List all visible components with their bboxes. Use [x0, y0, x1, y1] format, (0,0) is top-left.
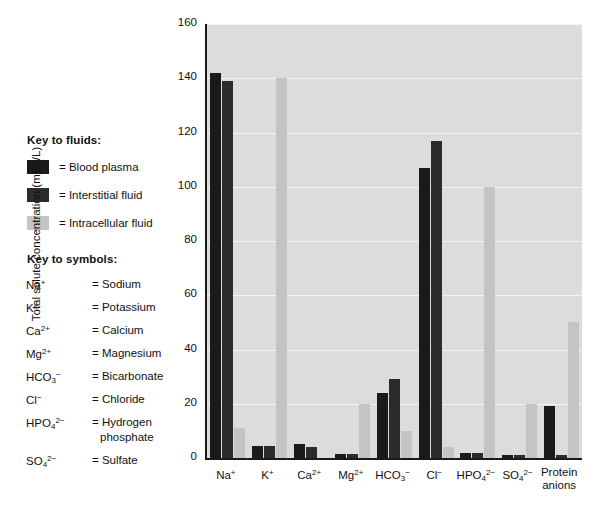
bar-1-0 [252, 446, 263, 458]
y-tick-label-80: 80 [163, 233, 197, 245]
bar-2-1 [306, 447, 317, 458]
bar-3-2 [359, 404, 370, 458]
bar-group-1 [252, 24, 287, 458]
y-tick-label-120: 120 [163, 125, 197, 137]
bar-6-2 [484, 187, 495, 458]
y-tick-label-0: 0 [163, 450, 197, 462]
bar-group-5 [419, 24, 454, 458]
bar-5-2 [443, 447, 454, 458]
bar-group-8 [544, 24, 579, 458]
bar-0-1 [222, 81, 233, 458]
x-tick-label-7: SO42− [497, 466, 539, 485]
bar-group-2 [294, 24, 329, 458]
ion-concentration-figure: Key to fluids: = Blood plasma= Interstit… [0, 0, 609, 508]
x-tick-label-1: K+ [247, 466, 289, 482]
bar-7-2 [526, 404, 537, 458]
plot-area [205, 24, 582, 458]
bar-8-0 [544, 406, 555, 458]
x-tick-label-5: Cl− [413, 466, 455, 482]
y-tick-label-140: 140 [163, 70, 197, 82]
bar-4-2 [401, 431, 412, 458]
bar-group-4 [377, 24, 412, 458]
bar-8-2 [568, 322, 579, 458]
bar-4-1 [389, 379, 400, 458]
x-tick-label-8: Proteinanions [538, 466, 580, 492]
x-tick-label-2: Ca2+ [288, 466, 330, 482]
y-tick-label-60: 60 [163, 287, 197, 299]
x-tick-label-3: Mg2+ [330, 466, 372, 482]
x-tick-label-0: Na+ [205, 466, 247, 482]
y-tick-label-40: 40 [163, 342, 197, 354]
bar-group-0 [210, 24, 245, 458]
bar-group-6 [460, 24, 495, 458]
y-tick-label-160: 160 [163, 16, 197, 28]
bar-1-1 [264, 446, 275, 458]
bar-5-1 [431, 141, 442, 458]
chart-area: Total solute concentration (mEq/L) 02040… [0, 0, 609, 508]
bar-2-0 [294, 444, 305, 458]
y-tick-label-100: 100 [163, 179, 197, 191]
bar-group-3 [335, 24, 370, 458]
bar-group-7 [502, 24, 537, 458]
bar-0-0 [210, 73, 221, 458]
bar-0-2 [234, 428, 245, 458]
x-tick-label-4: HCO3− [372, 466, 414, 485]
bar-4-0 [377, 393, 388, 458]
x-axis-line [205, 458, 582, 460]
bar-1-2 [276, 78, 287, 458]
x-tick-label-6: HPO42− [455, 466, 497, 485]
bar-5-0 [419, 168, 430, 458]
y-tick-label-20: 20 [163, 396, 197, 408]
y-axis-title: Total solute concentration (mEq/L) [30, 104, 42, 364]
